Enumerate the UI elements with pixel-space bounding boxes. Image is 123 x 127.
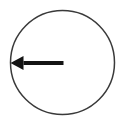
diagram-canvas [0, 0, 123, 127]
diagram-svg [0, 0, 123, 127]
